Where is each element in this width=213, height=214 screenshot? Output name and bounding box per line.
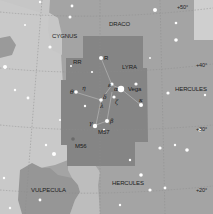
label-rr: RR xyxy=(73,59,81,65)
label-delta: δ xyxy=(103,94,107,100)
label-hercules-lower: HERCULES xyxy=(112,180,144,186)
label-zeta: ζ xyxy=(115,99,118,105)
label-theta: θ xyxy=(70,89,74,95)
label-draco: DRACO xyxy=(109,21,130,27)
label-alpha: α xyxy=(114,86,118,92)
label-r: R xyxy=(104,55,108,61)
label-lambda: λ xyxy=(100,103,104,109)
dec-tick-50: +50° xyxy=(177,5,188,11)
label-m56: M56 xyxy=(75,143,86,149)
dec-tick-20: +20° xyxy=(196,188,207,194)
dec-tick-30: +30° xyxy=(196,127,207,133)
chart-graphics xyxy=(0,0,213,214)
upper-right-inset xyxy=(194,0,213,40)
m56-marker xyxy=(71,137,75,141)
dec-tick-40: +40° xyxy=(196,63,207,69)
label-lyra: LYRA xyxy=(122,64,137,70)
label-vulpecula: VULPECULA xyxy=(31,187,66,193)
label-gamma: γ xyxy=(89,120,93,126)
label-hercules-upper: HERCULES xyxy=(175,86,207,92)
label-beta: β xyxy=(110,118,113,124)
label-eta: η xyxy=(82,85,86,91)
star-chart: DRACO CYGNUS LYRA HERCULES HERCULES VULP… xyxy=(0,0,213,214)
label-epsilon: ε xyxy=(108,82,111,88)
label-m57: M57 xyxy=(98,129,109,135)
label-kappa: κ xyxy=(139,97,143,103)
label-vega: Vega xyxy=(128,86,141,92)
label-cygnus: CYGNUS xyxy=(52,33,77,39)
